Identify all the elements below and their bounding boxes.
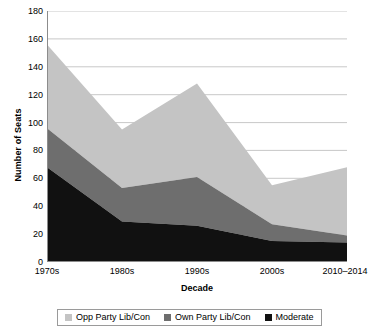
legend-item-label: Moderate — [276, 312, 314, 322]
area-chart-svg — [47, 11, 347, 262]
x-axis-tick-labels: 1970s 1980s 1990s 2000s 2010–2014 — [47, 266, 347, 280]
plot-area — [47, 11, 347, 262]
legend-swatch-icon — [265, 314, 272, 321]
y-tick-80: 80 — [13, 146, 43, 155]
y-tick-140: 140 — [13, 63, 43, 72]
y-tick-20: 20 — [13, 230, 43, 239]
y-tick-180: 180 — [13, 7, 43, 16]
legend-swatch-icon — [164, 314, 171, 321]
y-tick-40: 40 — [13, 202, 43, 211]
series-area-layers — [47, 44, 347, 262]
x-tick-1970s: 1970s — [35, 266, 60, 277]
legend-item-0[interactable]: Opp Party Lib/Con — [65, 312, 150, 322]
x-tick-2000s: 2000s — [260, 266, 285, 277]
x-tick-1990s: 1990s — [185, 266, 210, 277]
legend-item-label: Opp Party Lib/Con — [76, 312, 150, 322]
y-tick-160: 160 — [13, 35, 43, 44]
legend-item-label: Own Party Lib/Con — [175, 312, 251, 322]
y-tick-100: 100 — [13, 119, 43, 128]
legend-swatch-icon — [65, 314, 72, 321]
legend-item-2[interactable]: Moderate — [265, 312, 314, 322]
y-axis-tick-labels: 180 160 140 120 100 80 60 40 20 0 — [9, 11, 43, 262]
y-tick-120: 120 — [13, 91, 43, 100]
legend-item-1[interactable]: Own Party Lib/Con — [164, 312, 251, 322]
chart-legend: Opp Party Lib/ConOwn Party Lib/ConModera… — [57, 309, 322, 326]
x-axis-title: Decade — [47, 283, 347, 293]
x-tick-1980s: 1980s — [110, 266, 135, 277]
y-tick-60: 60 — [13, 174, 43, 183]
x-tick-2010-2014: 2010–2014 — [322, 266, 367, 277]
